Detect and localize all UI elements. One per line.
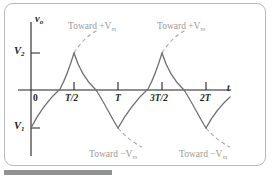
y-tick-label-v1-subscript: 1 [21,125,25,133]
annotation-subscript: m [222,153,227,160]
annotation-toward-minus-vm-right: Toward −Vm [179,150,227,161]
x-tick-label-t-over-2: T/2 [65,94,78,104]
annotation-subscript: m [132,153,137,160]
asymptote-extension-down-1 [118,128,142,147]
asymptote-extension-down-2 [206,128,230,147]
annotation-toward-plus-vm-left: Toward +Vm [68,22,116,33]
y-tick-label-v2-subscript: 2 [21,50,25,58]
asymptote-extension-up-2 [162,30,186,53]
x-tick-label-3t-over-2: 3T/2 [150,94,168,104]
annotation-subscript: m [200,25,205,32]
annotation-text: Toward −V [179,149,222,159]
annotation-text: Toward +V [68,21,111,31]
annotation-subscript: m [111,25,116,32]
y-axis-label-subscript: o [40,18,44,26]
annotation-text: Toward +V [157,21,200,31]
annotation-toward-minus-vm-left: Toward −Vm [89,150,137,161]
y-tick-label-v1: V1 [14,121,25,133]
x-tick-label-2t: 2T [200,94,211,104]
x-tick-label-t: T [115,94,121,104]
y-tick-label-v1-text: V [14,120,21,131]
annotation-text: Toward −V [89,149,132,159]
bottom-scroll-bar[interactable] [4,170,112,175]
y-tick-label-v2: V2 [14,46,25,58]
annotation-toward-plus-vm-right: Toward +Vm [157,22,205,33]
asymptote-extension-up-1 [74,30,98,53]
x-axis-label: t [227,84,230,94]
y-axis-label: vo [35,14,43,26]
origin-label: 0 [33,94,38,104]
y-tick-label-v2-text: V [14,45,21,56]
waveform-figure-panel: vo t 0 V2 V1 T/2 T 3T/2 2T Toward +Vm To… [4,3,266,166]
